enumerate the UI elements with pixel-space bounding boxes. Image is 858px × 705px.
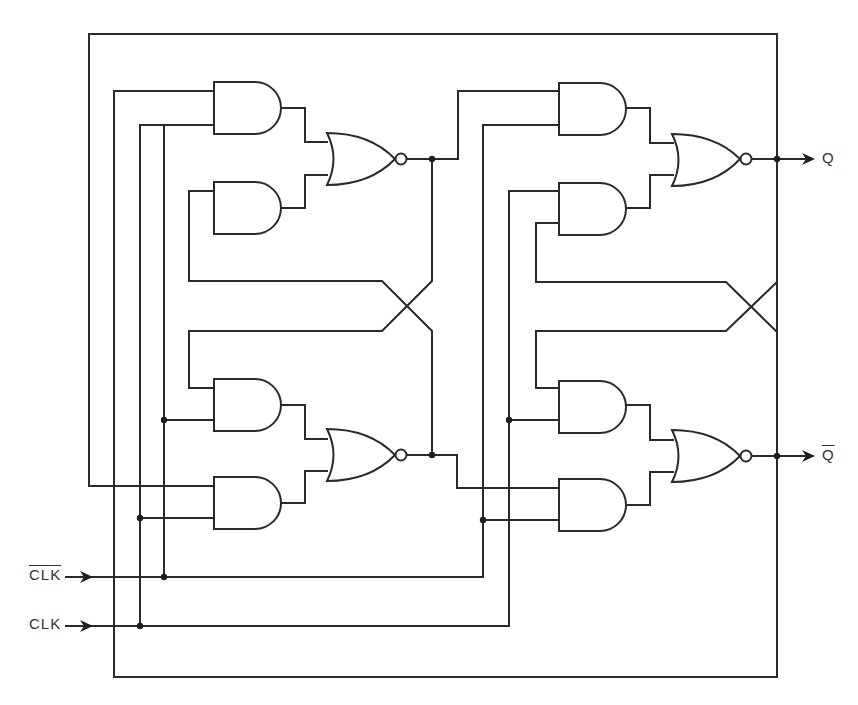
slave-nor-gate-top bbox=[672, 134, 752, 186]
clk-label: CLK bbox=[29, 615, 61, 632]
slave-and3-out bbox=[626, 405, 673, 440]
slave-and-gate-1 bbox=[559, 83, 626, 135]
master-nor-gate-bottom bbox=[327, 429, 407, 481]
slave-and1-out bbox=[626, 108, 673, 143]
slave-nor-gate-bottom bbox=[672, 430, 752, 482]
master-and3-out bbox=[281, 405, 327, 439]
clk-master-tap bbox=[140, 518, 214, 626]
slave-and4-out bbox=[626, 472, 673, 505]
master-and-gate-3 bbox=[214, 379, 281, 431]
clk-slave-tap bbox=[509, 191, 559, 626]
slave-and-gate-3 bbox=[559, 381, 626, 433]
slave-and-gate-2 bbox=[559, 183, 626, 235]
clk-bar-master-tap bbox=[164, 420, 214, 577]
master-and-gate-1 bbox=[214, 82, 281, 134]
q-output-label: Q bbox=[822, 149, 835, 166]
slave-and-gate-4 bbox=[559, 479, 626, 531]
clk-bar-label: CLK bbox=[29, 566, 61, 583]
master-nor-gate-top bbox=[327, 133, 407, 185]
circuit-schematic bbox=[0, 0, 858, 705]
master-and2-out bbox=[281, 175, 327, 208]
clk-bar-slave-tap-top bbox=[483, 125, 559, 520]
master-and4-out bbox=[281, 471, 327, 503]
slave-and2-out bbox=[626, 175, 673, 208]
master-and-gate-2 bbox=[214, 182, 281, 234]
q-bar-output-label: Q bbox=[822, 446, 835, 463]
master-and-gate-4 bbox=[214, 477, 281, 529]
master-and1-out bbox=[281, 108, 327, 142]
clk-bar-slave-tap bbox=[483, 520, 559, 577]
clk-master-tap-top bbox=[140, 125, 214, 518]
flip-flop-diagram: CLK CLK Q Q bbox=[0, 0, 858, 705]
